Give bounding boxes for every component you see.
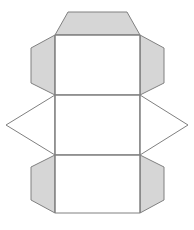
top-trapezoid-flap — [55, 12, 140, 35]
net-diagram: Net of a hexagonal prism — [0, 0, 194, 230]
lower-center-rectangle-face — [55, 155, 140, 213]
middle-center-rectangle-face — [55, 95, 140, 155]
upper-center-rectangle-face — [55, 35, 140, 95]
